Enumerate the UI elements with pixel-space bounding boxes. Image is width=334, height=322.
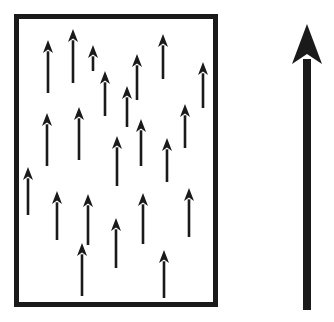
figure-root bbox=[0, 0, 334, 322]
magnetization-diagram-svg bbox=[0, 0, 334, 322]
